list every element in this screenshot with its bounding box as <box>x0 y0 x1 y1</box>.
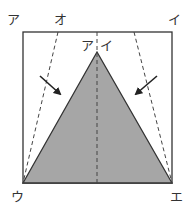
label-apex-a: ア <box>81 38 94 53</box>
origami-diagram: ア オ イ ア イ ウ エ <box>0 0 191 211</box>
label-bottom-right: エ <box>170 189 183 204</box>
label-top-right: イ <box>168 12 181 27</box>
label-bottom-left: ウ <box>11 189 24 204</box>
label-top-o: オ <box>54 12 67 27</box>
label-apex-i: イ <box>100 38 113 53</box>
label-top-left: ア <box>7 12 20 27</box>
